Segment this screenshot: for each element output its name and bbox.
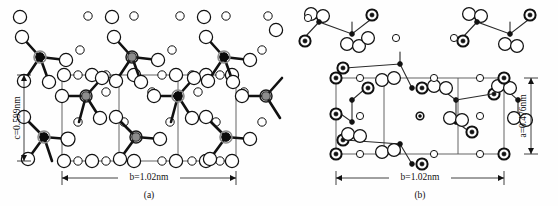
panel-a-b-dimension-label: b=1.02nm <box>130 172 169 182</box>
crystal-structure-figure: c=0.599nm b=1.02nm (a) <box>0 0 558 206</box>
panel-b-caption: (b) <box>414 190 425 201</box>
panel-b-b-dimension-label: b=1.02nm <box>401 172 440 182</box>
panel-b-a-dimension-label: a=0.476nm <box>518 94 528 138</box>
panel-a-caption: (a) <box>144 190 155 201</box>
panel-a-c-dimension-label: c=0.599nm <box>12 96 22 140</box>
figure-root: c=0.599nm b=1.02nm (a) <box>0 0 558 206</box>
